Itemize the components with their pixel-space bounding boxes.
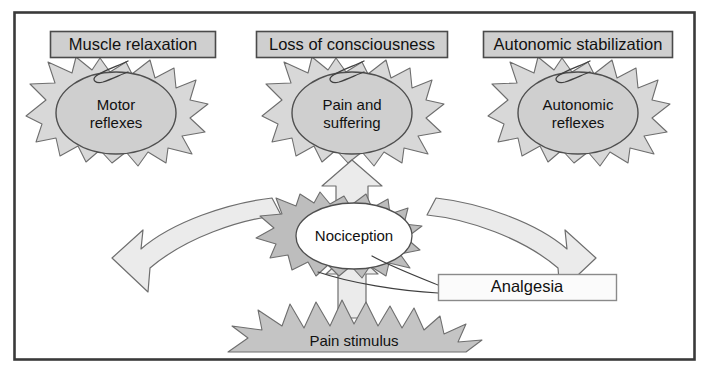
node-nociception: Nociception <box>315 227 393 244</box>
nociception-diagram: Muscle relaxation Motor reflexes Loss of… <box>0 0 708 372</box>
node-autonomic-reflexes-line2: reflexes <box>552 114 605 131</box>
node-motor-reflexes-line1: Motor <box>97 96 135 113</box>
node-motor-reflexes-line2: reflexes <box>90 114 143 131</box>
label-loss-of-consciousness: Loss of consciousness <box>269 35 435 53</box>
label-autonomic-stabilization: Autonomic stabilization <box>494 35 663 53</box>
label-analgesia: Analgesia <box>491 277 564 295</box>
node-pain-and-suffering-line2: suffering <box>323 114 380 131</box>
figure-root: Muscle relaxation Motor reflexes Loss of… <box>0 0 708 372</box>
node-pain-and-suffering-line1: Pain and <box>322 96 381 113</box>
label-muscle-relaxation: Muscle relaxation <box>69 35 197 53</box>
node-pain-stimulus: Pain stimulus <box>309 332 398 349</box>
node-autonomic-reflexes-line1: Autonomic <box>543 96 614 113</box>
